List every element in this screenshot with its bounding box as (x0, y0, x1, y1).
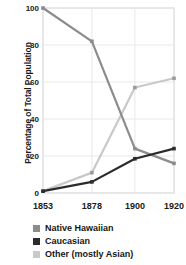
legend-label-native-hawaiian: Native Hawaiian (45, 223, 114, 233)
y-tick-40: 40 (30, 115, 39, 124)
plot-frame (43, 8, 174, 193)
x-tick-1878: 1878 (82, 201, 102, 211)
chart-legend: Native Hawaiian Caucasian Other (mostly … (33, 222, 183, 261)
x-tick-1853: 1853 (33, 201, 53, 211)
y-tick-80: 80 (30, 41, 39, 50)
legend-label-other: Other (mostly Asian) (45, 249, 133, 259)
x-tick-1920: 1920 (164, 201, 184, 211)
legend-item-caucasian: Caucasian (33, 235, 183, 247)
line-chart: Percentage of Total Population 020406080… (0, 0, 186, 265)
legend-item-other: Other (mostly Asian) (33, 248, 183, 260)
y-tick-60: 60 (30, 78, 39, 87)
legend-swatch-other (33, 251, 40, 258)
legend-swatch-native-hawaiian (33, 225, 40, 232)
legend-item-native-hawaiian: Native Hawaiian (33, 222, 183, 234)
x-axis-tick-labels: 1853187819001920 (33, 201, 184, 211)
legend-swatch-caucasian (33, 238, 40, 245)
legend-label-caucasian: Caucasian (45, 236, 90, 246)
y-axis-tick-labels: 020406080100 (26, 4, 40, 198)
x-tick-1900: 1900 (125, 201, 145, 211)
y-tick-0: 0 (35, 189, 40, 198)
y-tick-100: 100 (26, 4, 40, 13)
y-tick-20: 20 (30, 152, 39, 161)
plot-area: 020406080100 1853187819001920 (0, 0, 186, 220)
